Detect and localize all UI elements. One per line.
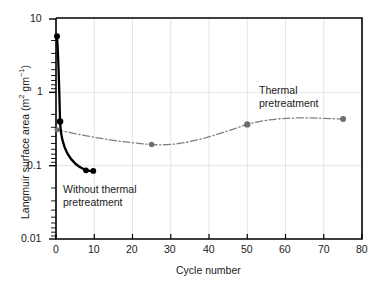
x-tick-label-30: 30 [164,244,176,255]
annotation-thermal-pretreatment: Thermal pretreatment [259,84,319,110]
data-point [83,167,89,173]
x-tick-label-0: 0 [53,244,59,255]
x-tick-label-80: 80 [356,244,368,255]
y-axis-title-main: Langmuir surface area (m [19,99,31,219]
annotation-without-thermal-pretreatment: Without thermal pretreatment [63,183,137,209]
data-point [90,168,96,174]
x-tick-label-20: 20 [126,244,138,255]
x-axis-title: Cycle number [176,265,241,276]
series-thermal-pretreatment-line [56,118,343,145]
annotation-line-2: pretreatment [259,97,319,110]
x-tick-label-10: 10 [88,244,100,255]
data-point [54,33,60,39]
annotation-line-2: pretreatment [63,196,137,209]
y-tick-label-1: 1 [37,86,43,97]
annotation-line-1: Thermal [259,84,319,97]
y-axis-title-sup-area: 2 [17,95,26,99]
annotation-line-1: Without thermal [63,183,137,196]
data-point [340,116,346,122]
data-point [57,118,63,124]
data-point [55,127,60,132]
x-tick-label-70: 70 [318,244,330,255]
y-axis-title: Langmuir surface area (m2 gm−1) [18,65,30,219]
series-without-thermal-pretreatment-line [57,36,93,171]
y-tick-label-10: 10 [30,13,42,24]
x-tick-label-40: 40 [203,244,215,255]
y-tick-label-0.01: 0.01 [21,233,41,244]
x-tick-label-60: 60 [279,244,291,255]
data-point [149,142,155,148]
x-tick-label-50: 50 [241,244,253,255]
chart-figure: 10 1 0.1 0.01 0 10 20 30 40 50 60 70 80 … [0,0,379,285]
y-axis-title-sup-mass: −1 [17,69,26,78]
series-thermal-pretreatment-markers [55,116,347,147]
y-axis-title-tail: ) [19,65,31,69]
y-axis-title-mid: gm [19,77,31,95]
data-point [244,121,250,127]
